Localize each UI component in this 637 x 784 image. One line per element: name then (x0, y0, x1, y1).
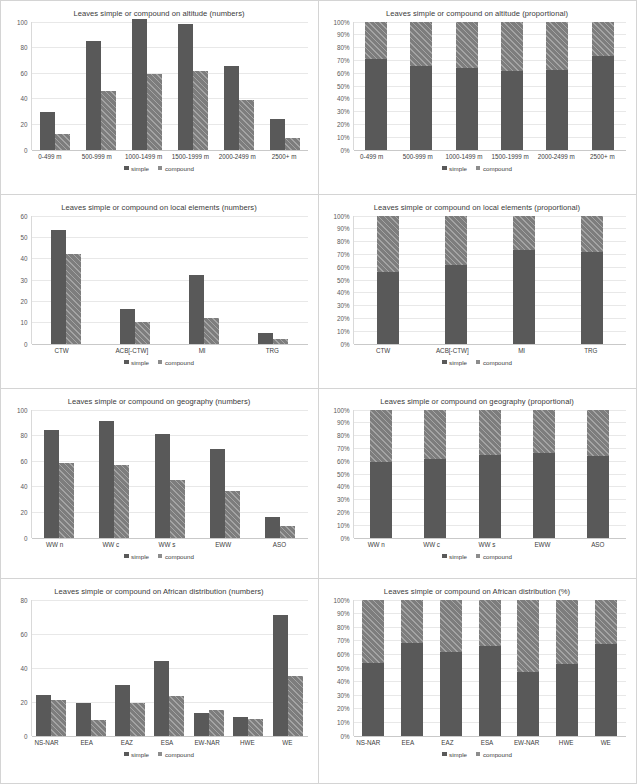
bar-simple[interactable] (51, 230, 66, 343)
bar-segment-simple[interactable] (401, 643, 423, 735)
legend-item-simple[interactable]: simple (442, 751, 467, 758)
stacked-bar[interactable] (362, 600, 384, 736)
legend-item-compound[interactable]: compound (476, 165, 512, 172)
bar-simple[interactable] (40, 112, 55, 149)
legend-item-simple[interactable]: simple (442, 165, 467, 172)
stacked-bar[interactable] (513, 216, 535, 344)
legend-item-compound[interactable]: compound (476, 359, 512, 366)
bar-segment-compound[interactable] (456, 22, 478, 69)
bar-compound[interactable] (51, 700, 66, 736)
bar-simple[interactable] (210, 449, 225, 537)
stacked-bar[interactable] (546, 22, 568, 150)
bar-compound[interactable] (248, 719, 263, 736)
stacked-bar[interactable] (370, 410, 392, 538)
stacked-bar[interactable] (424, 410, 446, 538)
stacked-bar[interactable] (445, 216, 467, 344)
bar-segment-compound[interactable] (517, 600, 539, 673)
bar-segment-simple[interactable] (456, 68, 478, 149)
bar-simple[interactable] (44, 430, 59, 538)
legend-item-compound[interactable]: compound (158, 751, 194, 758)
bar-compound[interactable] (169, 696, 184, 735)
legend-item-compound[interactable]: compound (158, 359, 194, 366)
bar-segment-simple[interactable] (595, 644, 617, 735)
bar-segment-compound[interactable] (410, 22, 432, 67)
bar-segment-simple[interactable] (513, 250, 535, 343)
stacked-bar[interactable] (581, 216, 603, 344)
bar-segment-compound[interactable] (365, 22, 387, 60)
bar-simple[interactable] (36, 695, 51, 736)
bar-segment-compound[interactable] (377, 216, 399, 273)
bar-compound[interactable] (285, 138, 300, 150)
bar-compound[interactable] (209, 710, 224, 736)
bar-segment-compound[interactable] (513, 216, 535, 251)
stacked-bar[interactable] (377, 216, 399, 344)
bar-segment-simple[interactable] (370, 462, 392, 538)
stacked-bar[interactable] (556, 600, 578, 736)
bar-compound[interactable] (66, 254, 81, 344)
stacked-bar[interactable] (592, 22, 614, 150)
bar-compound[interactable] (114, 465, 129, 538)
legend-item-compound[interactable]: compound (476, 751, 512, 758)
bar-segment-compound[interactable] (581, 216, 603, 253)
bar-compound[interactable] (193, 71, 208, 149)
bar-segment-simple[interactable] (377, 272, 399, 343)
bar-segment-simple[interactable] (501, 71, 523, 150)
bar-compound[interactable] (280, 526, 295, 538)
bar-simple[interactable] (76, 703, 91, 735)
bar-compound[interactable] (288, 676, 303, 736)
bar-segment-simple[interactable] (479, 646, 501, 735)
bar-compound[interactable] (135, 322, 150, 343)
bar-segment-compound[interactable] (370, 410, 392, 462)
bar-segment-compound[interactable] (546, 22, 568, 70)
stacked-bar[interactable] (410, 22, 432, 150)
legend-item-simple[interactable]: simple (442, 553, 467, 560)
stacked-bar[interactable] (533, 410, 555, 538)
bar-simple[interactable] (178, 24, 193, 149)
bar-compound[interactable] (91, 720, 106, 735)
bar-segment-simple[interactable] (362, 663, 384, 735)
bar-compound[interactable] (170, 480, 185, 538)
bar-simple[interactable] (189, 275, 204, 343)
bar-segment-simple[interactable] (533, 453, 555, 537)
bar-compound[interactable] (273, 339, 288, 343)
bar-compound[interactable] (204, 318, 219, 344)
bar-segment-compound[interactable] (587, 410, 609, 456)
legend-item-simple[interactable]: simple (124, 359, 149, 366)
stacked-bar[interactable] (365, 22, 387, 150)
stacked-bar[interactable] (587, 410, 609, 538)
bar-segment-compound[interactable] (592, 22, 614, 57)
bar-compound[interactable] (239, 100, 254, 150)
bar-segment-simple[interactable] (556, 664, 578, 735)
bar-simple[interactable] (273, 615, 288, 736)
bar-simple[interactable] (99, 421, 114, 537)
bar-segment-compound[interactable] (362, 600, 384, 664)
bar-simple[interactable] (265, 517, 280, 537)
bar-simple[interactable] (194, 713, 209, 735)
stacked-bar[interactable] (595, 600, 617, 736)
legend-item-simple[interactable]: simple (124, 553, 149, 560)
stacked-bar[interactable] (401, 600, 423, 736)
bar-segment-compound[interactable] (424, 410, 446, 459)
bar-segment-simple[interactable] (410, 66, 432, 149)
legend-item-compound[interactable]: compound (158, 553, 194, 560)
bar-compound[interactable] (130, 703, 145, 735)
bar-segment-simple[interactable] (581, 252, 603, 343)
stacked-bar[interactable] (440, 600, 462, 736)
bar-simple[interactable] (270, 119, 285, 150)
bar-compound[interactable] (55, 134, 70, 149)
bar-segment-simple[interactable] (587, 456, 609, 538)
bar-simple[interactable] (115, 685, 130, 736)
bar-segment-simple[interactable] (445, 265, 467, 344)
legend-item-compound[interactable]: compound (476, 553, 512, 560)
bar-segment-compound[interactable] (595, 600, 617, 645)
bar-simple[interactable] (120, 309, 135, 343)
legend-item-simple[interactable]: simple (124, 165, 149, 172)
legend-item-simple[interactable]: simple (442, 359, 467, 366)
stacked-bar[interactable] (479, 600, 501, 736)
stacked-bar[interactable] (479, 410, 501, 538)
bar-segment-compound[interactable] (501, 22, 523, 71)
bar-simple[interactable] (86, 41, 101, 150)
legend-item-simple[interactable]: simple (124, 751, 149, 758)
bar-simple[interactable] (132, 19, 147, 150)
bar-segment-simple[interactable] (546, 70, 568, 150)
